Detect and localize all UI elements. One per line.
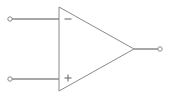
output-terminal[interactable] [158,47,162,51]
plus-sign-icon [65,75,72,82]
op-amp-diagram [0,0,170,99]
inverting-input-terminal[interactable] [8,17,12,21]
non-inverting-input-terminal[interactable] [8,77,12,81]
schematic-canvas [0,0,170,99]
